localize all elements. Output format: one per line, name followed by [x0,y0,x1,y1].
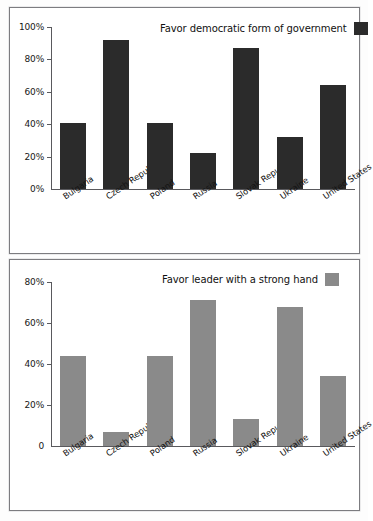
y-axis-tick [47,364,51,365]
y-axis-tick-label: 80% [25,277,44,287]
chart-panel-strong-hand: 020%40%60%80%BulgariaCzech RepublicPolan… [9,259,360,511]
y-axis-tick-label: 20% [25,152,44,162]
y-axis-tick-label: 40% [25,359,44,369]
y-axis-tick [47,59,51,60]
y-axis-tick-label: 0% [30,184,44,194]
bar [190,300,216,446]
legend-strong-hand: Favor leader with a strong hand [162,273,339,286]
bar [60,356,86,446]
y-axis-tick-label: 0 [38,441,44,451]
y-axis-tick [47,282,51,283]
y-axis-tick-label: 80% [25,54,44,64]
legend-label: Favor democratic form of government [160,23,347,34]
legend-swatch-icon [325,273,339,286]
y-axis-tick-label: 60% [25,87,44,97]
y-axis-line [51,282,52,447]
y-axis-tick [47,124,51,125]
y-axis-tick-label: 60% [25,318,44,328]
legend-label: Favor leader with a strong hand [162,274,318,285]
y-axis-tick-label: 100% [19,22,44,32]
plot-area-democracy: 0%20%40%60%80%100%BulgariaCzech Republic… [10,8,359,253]
bar [320,85,346,189]
y-axis-tick [47,92,51,93]
y-axis-tick-label: 20% [25,400,44,410]
y-axis-tick-label: 40% [25,119,44,129]
y-axis-line [51,27,52,190]
y-axis-tick [47,27,51,28]
legend-swatch-icon [354,22,368,35]
plot-area-strong-hand: 020%40%60%80%BulgariaCzech RepublicPolan… [10,260,359,510]
bar [277,307,303,446]
bar [103,40,129,189]
y-axis-tick [47,323,51,324]
chart-panel-democracy: 0%20%40%60%80%100%BulgariaCzech Republic… [9,7,360,254]
bar [147,356,173,446]
y-axis-tick [47,405,51,406]
bar [233,48,259,189]
y-axis-tick [47,157,51,158]
legend-democracy: Favor democratic form of government [160,22,368,35]
